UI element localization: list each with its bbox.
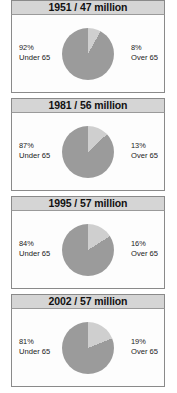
panel-1951: 1951 / 47 million 92% Under 65 8% Over 6… (11, 0, 165, 93)
category-label: Under 65 (19, 347, 50, 358)
category-label: Over 65 (131, 347, 158, 358)
category-label: Under 65 (19, 53, 50, 64)
pie-chart-1995 (62, 224, 114, 276)
percent-value: 13% (131, 141, 158, 152)
panel-2002: 2002 / 57 million 81% Under 65 19% Over … (11, 294, 165, 387)
category-label: Under 65 (19, 151, 50, 162)
percent-value: 16% (131, 239, 158, 250)
label-over65-1981: 13% Over 65 (131, 141, 158, 162)
panel-body-2002: 81% Under 65 19% Over 65 (11, 309, 165, 387)
panel-title-text: 1981 / 56 million (49, 100, 128, 111)
pie-chart-2002 (62, 322, 114, 374)
panel-title-text: 1995 / 57 million (49, 198, 128, 209)
panel-body-1981: 87% Under 65 13% Over 65 (11, 113, 165, 191)
pie-chart-1981 (62, 126, 114, 178)
panel-title-text: 2002 / 57 million (49, 296, 128, 307)
percent-value: 81% (19, 337, 50, 348)
label-under65-1951: 92% Under 65 (19, 43, 50, 64)
label-under65-2002: 81% Under 65 (19, 337, 50, 358)
label-under65-1981: 87% Under 65 (19, 141, 50, 162)
label-over65-1951: 8% Over 65 (131, 43, 158, 64)
category-label: Over 65 (131, 53, 158, 64)
category-label: Over 65 (131, 249, 158, 260)
label-over65-2002: 19% Over 65 (131, 337, 158, 358)
category-label: Under 65 (19, 249, 50, 260)
label-over65-1995: 16% Over 65 (131, 239, 158, 260)
panel-1995: 1995 / 57 million 84% Under 65 16% Over … (11, 196, 165, 289)
percent-value: 19% (131, 337, 158, 348)
label-under65-1995: 84% Under 65 (19, 239, 50, 260)
panel-body-1995: 84% Under 65 16% Over 65 (11, 211, 165, 289)
percent-value: 92% (19, 43, 50, 54)
panel-body-1951: 92% Under 65 8% Over 65 (11, 15, 165, 93)
percent-value: 84% (19, 239, 50, 250)
category-label: Over 65 (131, 151, 158, 162)
panel-header-1951: 1951 / 47 million (11, 0, 165, 15)
pie-slices (62, 322, 114, 374)
pie-slices (62, 126, 114, 178)
pie-slices (62, 224, 114, 276)
panel-title-text: 1951 / 47 million (49, 2, 128, 13)
panel-header-2002: 2002 / 57 million (11, 294, 165, 309)
percent-value: 8% (131, 43, 158, 54)
pie-slices (62, 28, 114, 80)
percent-value: 87% (19, 141, 50, 152)
pie-chart-1951 (62, 28, 114, 80)
panel-header-1981: 1981 / 56 million (11, 98, 165, 113)
panel-header-1995: 1995 / 57 million (11, 196, 165, 211)
pie-chart-series: 1951 / 47 million 92% Under 65 8% Over 6… (11, 0, 165, 387)
panel-1981: 1981 / 56 million 87% Under 65 13% Over … (11, 98, 165, 191)
